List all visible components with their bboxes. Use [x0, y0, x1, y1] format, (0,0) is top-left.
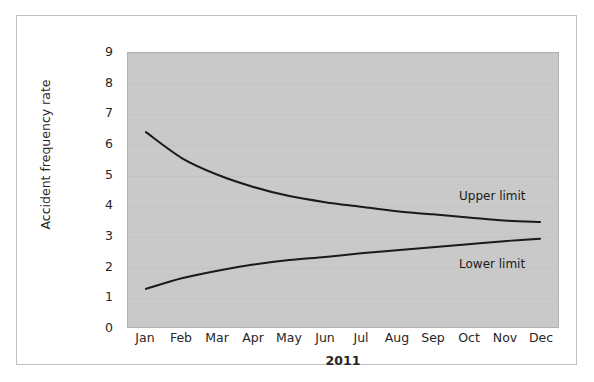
x-tick-label: Apr: [235, 331, 271, 345]
y-tick-label: 2: [105, 260, 113, 273]
y-tick-label: 3: [105, 230, 113, 243]
x-tick-label: Oct: [451, 331, 487, 345]
x-axis-tick-labels: JanFebMarAprMayJunJulAugSepOctNovDec: [127, 331, 559, 351]
x-tick-label: Feb: [163, 331, 199, 345]
y-tick-label: 1: [105, 291, 113, 304]
x-tick-label: Sep: [415, 331, 451, 345]
annotation-upper-limit: Upper limit: [459, 189, 526, 203]
x-tick-label: May: [271, 331, 307, 345]
y-tick-label: 8: [105, 76, 113, 89]
x-tick-label: Jan: [127, 331, 163, 345]
x-tick-label: Mar: [199, 331, 235, 345]
x-tick-label: Dec: [523, 331, 559, 345]
x-tick-label: Jun: [307, 331, 343, 345]
y-tick-label: 6: [105, 138, 113, 151]
annotation-lower-limit: Lower limit: [459, 257, 525, 271]
x-tick-label: Nov: [487, 331, 523, 345]
y-tick-label: 4: [105, 199, 113, 212]
y-tick-label: 9: [105, 46, 113, 59]
x-tick-label: Jul: [343, 331, 379, 345]
x-tick-label: Aug: [379, 331, 415, 345]
y-tick-label: 0: [105, 322, 113, 335]
chart-figure: Accident frequency rate 9876543210 Upper…: [0, 0, 594, 382]
y-axis-tick-labels: 9876543210: [17, 52, 121, 328]
chart-frame: Accident frequency rate 9876543210 Upper…: [16, 15, 577, 365]
y-tick-label: 5: [105, 168, 113, 181]
x-axis-title: 2011: [127, 353, 559, 368]
y-tick-label: 7: [105, 107, 113, 120]
series-line: [146, 132, 540, 222]
